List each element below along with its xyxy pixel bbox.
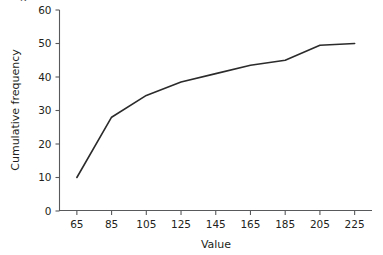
y-axis-title: Cumulative frequency (9, 49, 22, 171)
x-axis-tick-labels: 6585105125145165185205225 (70, 218, 364, 230)
x-tick-label: 225 (345, 218, 365, 230)
y-axis-tick-labels: 0102030405060 (38, 4, 51, 217)
x-tick-label: 145 (206, 218, 226, 230)
x-tick-label: 165 (240, 218, 260, 230)
x-tick-label: 185 (275, 218, 295, 230)
cumulative-frequency-line (77, 44, 355, 178)
y-tick-label: 10 (38, 171, 51, 183)
x-tick-label: 65 (70, 218, 83, 230)
x-axis-title: Value (201, 238, 231, 251)
y-tick-label: 40 (38, 71, 51, 83)
cumulative-frequency-chart: 0102030405060 Cumulative frequency 65851… (0, 0, 383, 255)
x-tick-label: 105 (136, 218, 156, 230)
y-tick-label: 30 (38, 104, 51, 116)
data-series-group (77, 44, 355, 178)
cumulative-frequency-figure: g 0102030405060 Cumulative frequency 658… (0, 0, 383, 255)
y-tick-label: 20 (38, 138, 51, 150)
y-tick-label: 50 (38, 37, 51, 49)
y-axis-ticks (56, 10, 60, 211)
x-axis-ticks (77, 211, 355, 215)
x-tick-label: 85 (105, 218, 118, 230)
x-tick-label: 205 (310, 218, 330, 230)
x-tick-label: 125 (171, 218, 191, 230)
y-tick-label: 60 (38, 4, 51, 16)
y-tick-label: 0 (45, 205, 52, 217)
x-axis-group: 6585105125145165185205225 Value (60, 211, 373, 252)
y-axis-group: 0102030405060 Cumulative frequency (9, 4, 60, 217)
